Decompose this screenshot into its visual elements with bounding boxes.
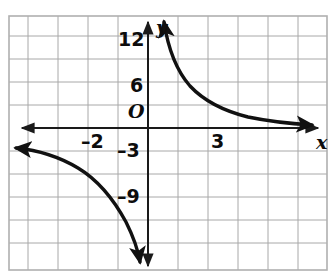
y-tick-label-minus-3: –3 — [117, 141, 140, 160]
graph-figure: 12 6 O –3 –9 –2 3 y x — [0, 0, 336, 276]
y-tick-label-12: 12 — [118, 30, 144, 49]
x-axis-name-label: x — [316, 133, 327, 152]
x-tick-label-3: 3 — [211, 132, 224, 151]
coordinate-plane-svg — [0, 0, 336, 276]
y-tick-label-minus-9: –9 — [117, 187, 140, 206]
y-axis-name-label: y — [156, 18, 167, 37]
x-tick-label-minus-2: –2 — [81, 132, 104, 151]
origin-label: O — [128, 102, 145, 121]
y-tick-label-6: 6 — [130, 76, 143, 95]
plot-background — [9, 16, 327, 270]
